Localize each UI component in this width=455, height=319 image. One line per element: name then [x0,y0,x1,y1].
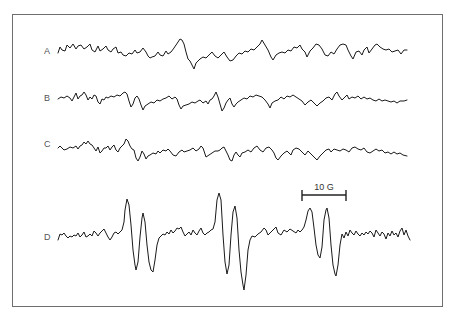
trace-c-label: C [44,139,51,149]
trace-a-label: A [44,46,50,56]
trace-a-group: A [44,39,407,69]
trace-d-line [58,193,410,290]
epr-spectra-figure: A B C D 10 G [0,0,455,319]
trace-d-label: D [44,232,51,242]
scale-bar: 10 G [302,182,346,201]
trace-d-group: D [44,193,410,290]
trace-b-line [58,92,407,111]
trace-a-line [58,39,407,69]
trace-b-group: B [44,92,407,111]
trace-c-group: C [44,139,407,161]
trace-c-line [58,139,407,161]
trace-b-label: B [44,93,50,103]
scale-bar-label: 10 G [314,182,334,192]
